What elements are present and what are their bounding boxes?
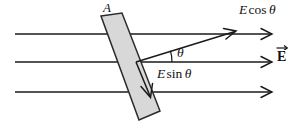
cos-function: cos	[248, 2, 266, 17]
area-label: A	[103, 1, 111, 14]
figure-canvas	[0, 0, 302, 125]
angle-arc-path	[170, 51, 172, 62]
e-bold-symbol: E	[277, 49, 286, 64]
e-cos-theta-label: E cos θ	[239, 3, 276, 17]
e-symbol: E	[239, 2, 247, 17]
tilted-surface-slab	[101, 13, 160, 120]
slab-body	[101, 13, 160, 120]
vector-symbol-wrap: E	[277, 50, 286, 64]
sin-function: sin	[166, 66, 182, 81]
e-symbol: E	[157, 66, 165, 81]
theta-symbol: θ	[185, 66, 192, 81]
field-line-middle	[15, 57, 272, 68]
e-sin-theta-label: E sin θ	[157, 67, 192, 81]
physics-figure: A E cos θ E sin θ θ E	[0, 0, 302, 125]
e-field-vector-label: E	[277, 50, 286, 64]
theta-angle-arc	[170, 51, 172, 62]
theta-symbol: θ	[269, 2, 276, 17]
theta-label: θ	[177, 46, 184, 60]
vector-shaft	[136, 32, 235, 63]
